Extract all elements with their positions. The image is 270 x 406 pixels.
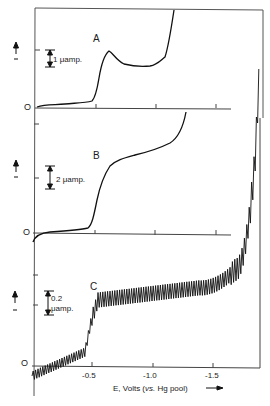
- panel-c-scale-text-unit: μamp.: [51, 304, 73, 313]
- curve-c: [32, 69, 259, 379]
- panel-c-label: C: [90, 281, 97, 292]
- polarogram-figure: A O 1 μamp. B O 2 μamp.: [0, 0, 270, 406]
- panel-b-zero-label: O: [23, 227, 30, 237]
- x-tick-label: -1.5: [205, 371, 219, 380]
- panel-b-scale-text: 2 μamp.: [56, 175, 85, 184]
- panel-a-zero-label: O: [24, 102, 31, 112]
- panel-c-up-arrow-icon: [13, 291, 18, 310]
- x-tick-label: -1.0: [143, 371, 157, 380]
- panel-b-label: B: [93, 150, 100, 161]
- panel-b-up-arrow-icon: [14, 160, 19, 177]
- panel-a-up-arrow-icon: [14, 42, 19, 59]
- panel-c-axes: [32, 118, 260, 368]
- panel-a-label: A: [93, 33, 100, 44]
- panel-c-scale-text-value: 0.2: [51, 294, 63, 303]
- x-tick-label: -0.5: [82, 371, 96, 380]
- panel-a-scale-text: 1 μamp.: [53, 55, 82, 64]
- panel-c-zero-label: O: [21, 358, 28, 368]
- panel-b-scale-bar: [45, 166, 55, 189]
- x-axis-arrow-icon: [206, 386, 223, 390]
- x-axis-label: E, Volts (vs. Hg pool): [113, 384, 188, 393]
